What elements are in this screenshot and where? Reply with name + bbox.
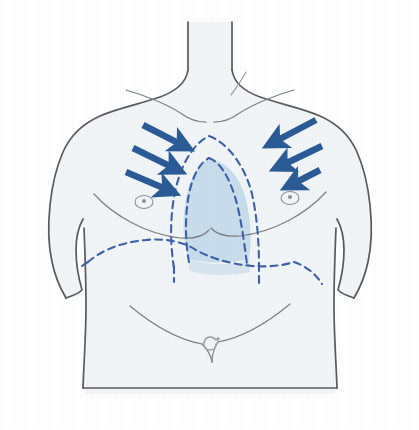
neck-fill <box>188 22 232 72</box>
anterior-thorax-figure <box>0 0 419 430</box>
illustration-root: Anterior thorax percussion of cardiac du… <box>0 0 419 430</box>
